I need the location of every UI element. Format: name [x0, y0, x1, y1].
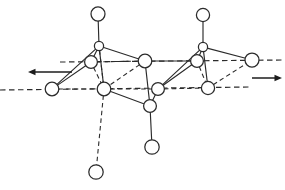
atom-left-lower-inner [97, 82, 111, 96]
atom-bottom-left-terminal [89, 165, 103, 179]
atom-center-upper [138, 54, 152, 68]
left-displacement-arrow [28, 69, 72, 75]
right-displacement-arrow [252, 75, 282, 81]
bond-solid-right-upper-inner-to-center-lower-inner [163, 64, 192, 85]
structure-canvas [0, 0, 285, 190]
atom-left-outer-lower [45, 82, 59, 96]
bond-solid-center-junction-to-bottom-center-terminal [150, 112, 151, 140]
atom-center-junction [144, 100, 157, 113]
atom-right-outer-upper [245, 53, 259, 67]
bond-solid-center-upper-to-center-junction [146, 67, 150, 100]
atom-right-apex [198, 42, 207, 51]
bond-dashed-left-upper-inner-to-left-lower-inner [94, 67, 102, 83]
bond-solid-left-lower-inner-to-center-junction [110, 91, 144, 104]
atom-bottom-center-terminal [145, 140, 159, 154]
bond-dashed-center-lower-inner-to-right-lower-inner [164, 88, 202, 89]
atom-top-right-terminal [196, 8, 209, 21]
bond-solid-right-apex-to-right-outer-upper [207, 48, 246, 58]
atom-center-lower-inner [152, 83, 165, 96]
atom-right-upper-inner [191, 55, 204, 68]
atom-right-lower-inner [201, 81, 214, 94]
atom-left-upper-inner [85, 56, 98, 69]
atom-layer [45, 7, 259, 179]
bond-dashed-left-lower-inner-to-bottom-left-terminal [97, 95, 104, 165]
solid-bond-layer [57, 21, 246, 141]
bond-dashed-center-upper-to-left-lower-inner [109, 65, 139, 86]
bond-solid-left-apex-to-center-upper [103, 47, 139, 59]
atom-top-left-terminal [91, 7, 105, 21]
left-displacement-arrow-head [28, 69, 36, 75]
bond-solid-left-upper-inner-to-left-outer-lower [57, 65, 86, 85]
structure-figure [0, 0, 285, 190]
atom-left-apex [94, 41, 103, 50]
right-displacement-arrow-head [275, 75, 283, 81]
bond-dashed-right-upper-inner-to-right-lower-inner [199, 67, 205, 83]
bond-dashed-right-lower-inner-to-right-outer-upper [213, 64, 246, 85]
bond-solid-top-left-terminal-to-left-apex [98, 21, 99, 42]
bond-solid-left-apex-to-left-lower-inner [99, 50, 103, 82]
